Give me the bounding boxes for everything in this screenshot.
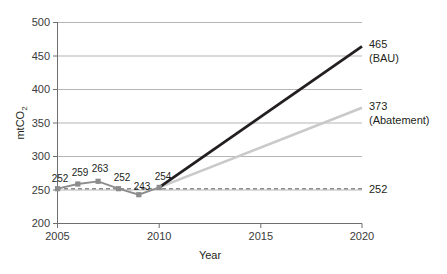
x-axis-title: Year — [199, 249, 222, 261]
y-axis-title-subscript: 2 — [20, 106, 29, 111]
data-point-marker — [116, 186, 121, 191]
bau-end-label: 465 (BAU) — [369, 38, 399, 64]
y-tick-label-450: 450 — [32, 50, 50, 62]
y-axis-title: mtCO2 — [14, 106, 29, 140]
y-tick-label-250: 250 — [32, 184, 50, 196]
x-tick-marks — [58, 224, 363, 229]
point-label-2005: 252 — [52, 173, 69, 184]
y-tick-labels: 500 450 400 350 300 250 200 — [32, 16, 50, 229]
x-tick-label-2010: 2010 — [147, 230, 171, 242]
x-tick-label-2015: 2015 — [249, 230, 273, 242]
y-tick-label-400: 400 — [32, 83, 50, 95]
abatement-end-value: 373 — [369, 100, 387, 112]
data-point-marker — [55, 186, 60, 191]
chart-container: 500 450 400 350 300 250 200 2005 2010 20… — [0, 0, 447, 274]
y-tick-marks — [53, 23, 57, 224]
svg-text:mtCO2: mtCO2 — [14, 106, 29, 140]
abatement-projection-line — [159, 108, 362, 188]
y-tick-label-500: 500 — [32, 16, 50, 28]
y-tick-label-350: 350 — [32, 117, 50, 129]
data-point-marker — [75, 181, 80, 186]
baseline-end-label: 252 — [369, 183, 387, 195]
historical-point-labels: 252 259 263 252 243 254 — [52, 163, 172, 192]
data-point-marker — [136, 192, 141, 197]
data-point-marker — [157, 185, 162, 190]
y-tick-label-200: 200 — [32, 217, 50, 229]
abatement-end-name: (Abatement) — [369, 114, 430, 126]
y-axis-title-base: mtCO — [14, 110, 26, 139]
point-label-2009: 243 — [134, 181, 151, 192]
x-tick-label-2020: 2020 — [350, 230, 374, 242]
bau-projection-line — [159, 46, 362, 187]
point-label-2010: 254 — [155, 171, 172, 182]
bau-end-name: (BAU) — [369, 52, 399, 64]
point-label-2008: 252 — [114, 172, 131, 183]
data-point-marker — [96, 179, 101, 184]
abatement-end-label: 373 (Abatement) — [369, 100, 430, 126]
emissions-line-chart: 500 450 400 350 300 250 200 2005 2010 20… — [0, 0, 447, 274]
bau-end-value: 465 — [369, 38, 387, 50]
x-tick-labels: 2005 2010 2015 2020 — [45, 230, 374, 242]
y-tick-label-300: 300 — [32, 150, 50, 162]
point-label-2007: 263 — [92, 163, 109, 174]
point-label-2006: 259 — [72, 167, 89, 178]
x-tick-label-2005: 2005 — [45, 230, 69, 242]
